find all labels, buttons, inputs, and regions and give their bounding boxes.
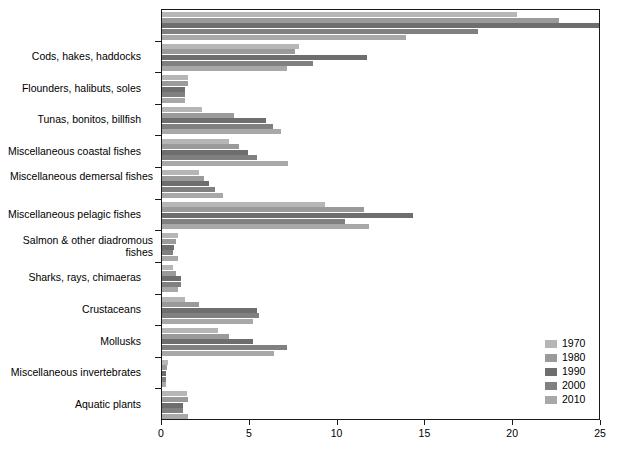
bar [162,44,299,49]
bar [162,339,253,344]
bar [162,150,248,155]
bar [162,360,168,365]
bar [162,124,273,129]
legend-swatch [545,382,557,390]
y-axis-tick [155,294,161,295]
bar [162,377,166,382]
y-axis-label: Tunas, bonitos, billfish [0,113,153,126]
bar [162,287,178,292]
bar [162,170,199,175]
bar [162,265,173,270]
y-axis-label: Miscellaneous invertebrates [0,366,153,379]
bar [162,308,257,313]
bar [162,29,478,34]
bar [162,49,295,54]
bar-group [162,389,599,420]
bar-group [162,200,599,232]
bar [162,87,185,92]
y-axis-tick [155,388,161,389]
bar [162,282,181,287]
legend-swatch [545,396,557,404]
bar [162,297,185,302]
x-axis-tick [161,420,162,425]
bar [162,391,187,396]
y-axis-tick [155,230,161,231]
y-axis-label: Mollusks [0,335,153,348]
bar [162,18,559,23]
y-axis-label: Cods, hakes, haddocks [0,50,153,63]
x-axis-tick [512,420,513,425]
bar-group [162,358,599,390]
bar [162,224,369,229]
y-axis-label: Flounders, halibuts, soles [0,82,153,95]
bar [162,382,166,387]
bar [162,92,185,97]
bar [162,334,229,339]
bar [162,61,313,66]
bar [162,55,367,60]
y-axis-tick [155,357,161,358]
legend-swatch [545,354,557,362]
bar [162,313,259,318]
legend-swatch [545,368,557,376]
bar [162,408,183,413]
bar [162,345,287,350]
y-axis-label: Crustaceans [0,303,153,316]
bar [162,365,167,370]
y-axis-tick [155,104,161,105]
bar [162,414,188,419]
x-axis-tick [337,420,338,425]
bar [162,118,266,123]
y-axis-tick [155,325,161,326]
bar [162,181,209,186]
y-axis-tick [155,135,161,136]
bar-group [162,10,599,42]
x-axis-tick [600,420,601,425]
legend-swatch [545,340,557,348]
bar [162,371,166,376]
x-axis-tick-label: 25 [580,427,617,439]
legend-label: 1970 [562,337,585,350]
x-axis-tick-label: 15 [404,427,444,439]
bar-group [162,295,599,327]
legend-label: 1980 [562,351,585,364]
y-axis-label: Miscellaneous coastal fishes [0,145,153,158]
bar [162,202,325,207]
bar-group [162,263,599,295]
bar [162,107,202,112]
bar [162,66,287,71]
y-axis-tick [155,41,161,42]
bar-group [162,73,599,105]
y-axis-label: Miscellaneous demersal fishes [0,170,165,183]
x-axis-tick [249,420,250,425]
y-axis-label: Salmon & other diadromous fishes [0,234,165,259]
bar [162,144,239,149]
bar [162,35,406,40]
bar-group [162,168,599,200]
bar [162,193,223,198]
bar-group [162,105,599,137]
bar [162,81,188,86]
bar [162,129,281,134]
bar [162,403,183,408]
x-axis-tick-label: 10 [317,427,357,439]
bar [162,139,229,144]
y-axis-label: Miscellaneous pelagic fishes [0,208,153,221]
bar-group [162,42,599,74]
legend-label: 2000 [562,379,585,392]
bar [162,271,176,276]
bar [162,219,345,224]
bar [162,98,185,103]
bar-group [162,231,599,263]
bar-group [162,326,599,358]
y-axis-tick [155,72,161,73]
bar [162,161,288,166]
bar [162,113,234,118]
bar [162,328,218,333]
bar [162,176,204,181]
x-axis-tick-label: 20 [492,427,532,439]
legend-label: 1990 [562,365,585,378]
bar-group [162,136,599,168]
bar [162,207,364,212]
bar [162,12,517,17]
